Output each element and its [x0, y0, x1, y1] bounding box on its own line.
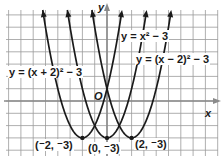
axes — [4, 3, 221, 156]
equation-label-left: y = (x + 2)² − 3 — [8, 66, 83, 78]
origin-label: O — [93, 90, 104, 102]
vertex-label-right: (2, ⁻3) — [134, 138, 168, 150]
vertex-label-left: (⁻2, ⁻3) — [34, 139, 74, 151]
y-axis-label: y — [97, 1, 105, 13]
vertex-label-middle: (0, ⁻3) — [87, 142, 121, 154]
equation-label-middle: y = x² − 3 — [120, 30, 169, 42]
parabola-graph — [0, 0, 223, 156]
grid-lines — [6, 10, 218, 156]
x-axis-label: x — [204, 107, 212, 119]
equation-label-right: y = (x − 2)² − 3 — [135, 53, 210, 65]
